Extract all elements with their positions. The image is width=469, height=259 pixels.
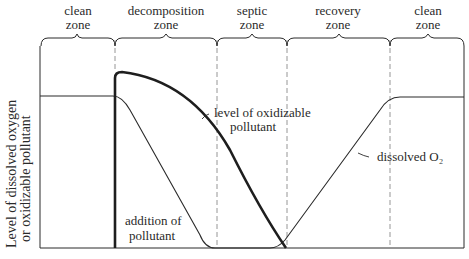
zone-label-clean-2-line2: zone — [416, 17, 441, 32]
brace-decomposition — [115, 34, 217, 46]
zone-label-decomposition-line2: zone — [154, 17, 179, 32]
pollutant-curve-label-line1: level of oxidizable — [214, 105, 311, 120]
zone-label-recovery-line2: zone — [326, 17, 351, 32]
zone-label-septic-line2: zone — [240, 17, 265, 32]
oxygen-sag-diagram: clean zone decomposition zone septic zon… — [0, 0, 469, 259]
brace-clean-1 — [41, 34, 115, 46]
brace-recovery — [287, 34, 390, 46]
y-axis-label-line1: Level of dissolved oxygen — [4, 100, 19, 248]
brace-septic — [217, 34, 287, 46]
zone-label-clean-2-line1: clean — [414, 3, 442, 18]
zone-label-recovery-line1: recovery — [315, 3, 361, 18]
pollutant-curve-label-line2: pollutant — [230, 119, 277, 134]
zone-label-clean-1-line1: clean — [64, 3, 92, 18]
y-axis-label: Level of dissolved oxygen or oxidizable … — [4, 100, 33, 248]
y-axis-label-line2: or oxidizable pollutant — [18, 115, 33, 242]
zone-label-clean-1-line2: zone — [66, 17, 91, 32]
zone-label-septic-line1: septic — [237, 3, 268, 18]
oxygen-curve-label: dissolved O₂ — [377, 149, 443, 164]
brace-clean-2 — [390, 34, 464, 46]
zone-label-decomposition-line1: decomposition — [128, 3, 205, 18]
addition-label-line1: addition of — [125, 213, 182, 228]
zone-braces — [41, 34, 464, 46]
oxygen-leader — [358, 153, 369, 157]
addition-label-line2: pollutant — [129, 228, 176, 243]
